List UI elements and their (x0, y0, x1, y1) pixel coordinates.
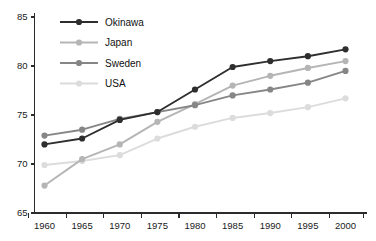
y-tick-label: 75 (17, 109, 28, 120)
y-tick-label: 65 (17, 207, 28, 218)
data-point (305, 65, 311, 71)
series-okinawa (41, 46, 348, 147)
legend-swatch-marker (76, 39, 82, 45)
data-point (192, 124, 198, 130)
data-point (79, 127, 85, 133)
series-line-usa (45, 98, 346, 165)
data-point (154, 119, 160, 125)
y-axis: 6570758085 (17, 11, 35, 218)
data-point (342, 68, 348, 74)
legend-swatch-marker (76, 60, 82, 66)
series-line-japan (45, 61, 346, 185)
data-point (305, 104, 311, 110)
legend-item-sweden[interactable]: Sweden (60, 58, 141, 69)
legend-swatch-marker (76, 19, 82, 25)
data-point (342, 58, 348, 64)
data-point (305, 53, 311, 59)
x-tick-label: 2000 (335, 220, 356, 231)
data-point (192, 102, 198, 108)
data-point (154, 135, 160, 141)
data-point (267, 86, 273, 92)
x-tick-label: 1995 (297, 220, 318, 231)
legend-item-japan[interactable]: Japan (60, 37, 132, 48)
x-tick-label: 1965 (72, 220, 93, 231)
line-chart: 6570758085 19601965197019751980198519901… (0, 0, 376, 241)
y-tick-label: 70 (17, 158, 28, 169)
x-tick-label: 1980 (184, 220, 205, 231)
data-point (230, 64, 236, 70)
data-point (305, 80, 311, 86)
data-point (117, 141, 123, 147)
data-point (154, 109, 160, 115)
series-japan (41, 58, 348, 189)
x-axis: 196019651970197519801985199019952000 (29, 213, 368, 231)
data-point (230, 115, 236, 121)
data-point (117, 117, 123, 123)
data-point (267, 73, 273, 79)
x-tick-label: 1970 (109, 220, 130, 231)
chart-canvas: 6570758085 19601965197019751980198519901… (0, 0, 376, 241)
y-tick-label: 85 (17, 11, 28, 22)
legend-label: Japan (105, 37, 132, 48)
legend-label: USA (105, 78, 126, 89)
data-point (267, 110, 273, 116)
legend-swatch-marker (76, 80, 82, 86)
data-point (41, 182, 47, 188)
data-point (117, 152, 123, 158)
x-tick-label: 1990 (260, 220, 281, 231)
legend-label: Okinawa (105, 17, 144, 28)
data-point (79, 135, 85, 141)
series-container (41, 46, 348, 188)
chart-legend: OkinawaJapanSwedenUSA (60, 17, 144, 90)
x-tick-label: 1960 (34, 220, 55, 231)
data-point (41, 162, 47, 168)
data-point (192, 86, 198, 92)
data-point (41, 141, 47, 147)
x-tick-label: 1975 (147, 220, 168, 231)
x-tick-label: 1985 (222, 220, 243, 231)
data-point (79, 156, 85, 162)
legend-item-okinawa[interactable]: Okinawa (60, 17, 144, 28)
data-point (41, 132, 47, 138)
data-point (267, 58, 273, 64)
data-point (230, 92, 236, 98)
legend-label: Sweden (105, 58, 141, 69)
data-point (342, 46, 348, 52)
data-point (230, 83, 236, 89)
legend-item-usa[interactable]: USA (60, 78, 126, 89)
y-tick-label: 80 (17, 60, 28, 71)
data-point (342, 95, 348, 101)
